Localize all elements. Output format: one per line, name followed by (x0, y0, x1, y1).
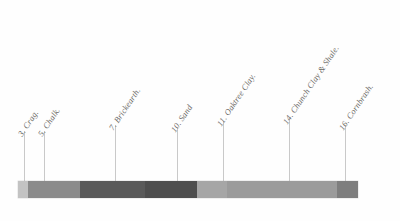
key-label: 14. Chunch Clay & Shale. (281, 43, 341, 126)
leader-line (345, 125, 346, 181)
key-label: 16. Cornbrash. (337, 82, 375, 132)
leader-line (24, 131, 25, 181)
key-segment (227, 181, 337, 198)
colour-key-bar (18, 181, 358, 198)
key-label: 11. Oaktree Clay. (215, 71, 258, 128)
key-segment (80, 181, 145, 198)
key-label: 10. Sand (169, 103, 195, 134)
key-segment (18, 181, 28, 198)
leader-line (44, 131, 45, 181)
key-segment (337, 181, 358, 198)
leader-line (223, 121, 224, 181)
key-label: 5. Chalk. (36, 106, 62, 138)
key-segment (28, 181, 80, 198)
leader-line (289, 119, 290, 181)
leader-line (115, 125, 116, 181)
key-label: 7. Brickearth. (107, 86, 143, 132)
geological-key-figure: 3. Crag.5. Chalk.7. Brickearth.10. Sand1… (0, 0, 400, 221)
key-segment (145, 181, 197, 198)
key-segment (197, 181, 227, 198)
leader-line (177, 127, 178, 181)
